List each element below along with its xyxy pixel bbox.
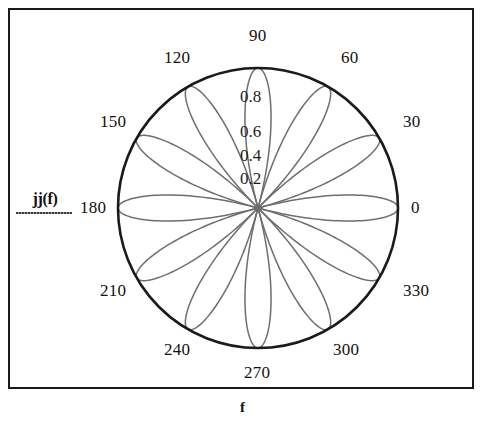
theta-tick-90: 90 (249, 27, 266, 44)
theta-tick-300: 300 (333, 341, 359, 358)
theta-tick-150: 150 (100, 113, 126, 130)
radial-tick-0-2: 0.2 (240, 170, 261, 187)
rose-petal (245, 208, 271, 348)
radial-tick-0-4: 0.4 (240, 147, 261, 164)
y-axis-label-text: jj(f) (16, 191, 74, 207)
rose-petal (118, 195, 258, 221)
theta-tick-270: 270 (244, 364, 270, 381)
y-axis-label: jj(f) (16, 191, 74, 214)
rose-petal-series (118, 68, 398, 348)
rose-petal (258, 195, 398, 221)
radial-tick-0-8: 0.8 (240, 88, 261, 105)
y-axis-label-rule (16, 212, 72, 214)
theta-tick-60: 60 (341, 49, 358, 66)
polar-chart-figure: 0 30 60 90 120 150 180 210 240 270 300 3… (0, 0, 485, 438)
theta-tick-180: 180 (80, 199, 106, 216)
theta-tick-210: 210 (100, 282, 126, 299)
theta-tick-240: 240 (164, 341, 190, 358)
radial-tick-0-6: 0.6 (240, 123, 261, 140)
x-axis-label: f (0, 400, 485, 415)
polar-plot-canvas (0, 0, 485, 438)
theta-tick-30: 30 (403, 113, 420, 130)
theta-tick-330: 330 (403, 282, 429, 299)
theta-tick-0: 0 (411, 199, 420, 216)
theta-tick-120: 120 (164, 49, 190, 66)
